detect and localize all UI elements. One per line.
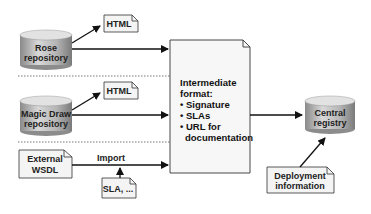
html-doc-1: HTML: [104, 15, 138, 32]
rose-repository-cylinder: Rose repository: [20, 30, 72, 70]
html-doc-1-label: HTML: [107, 19, 132, 29]
external-label-1: External: [27, 154, 63, 164]
intermediate-title-1: Intermediate: [180, 77, 237, 88]
html-doc-2: HTML: [104, 82, 138, 99]
arrow-rose-to-html: [72, 26, 100, 43]
magicdraw-label-2: repository: [24, 119, 68, 129]
magicdraw-label-1: Magic Draw: [21, 109, 72, 119]
import-label: Import: [97, 153, 125, 163]
central-registry-cylinder: Central registry: [305, 96, 355, 134]
external-wsdl-doc: External WSDL: [19, 150, 72, 178]
magicdraw-repository-cylinder: Magic Draw repository: [20, 96, 72, 136]
external-label-2: WSDL: [32, 165, 59, 175]
deployment-label-1: Deployment: [274, 171, 326, 181]
html-doc-2-label: HTML: [107, 86, 132, 96]
deployment-info-doc: Deployment information: [267, 167, 334, 193]
sla-doc: SLA, ...: [102, 178, 136, 198]
rose-label-2: repository: [24, 53, 68, 63]
rose-label-1: Rose: [35, 43, 57, 53]
intermediate-title-2: format:: [180, 88, 213, 99]
intermediate-bullet-3: • URL for: [180, 121, 221, 132]
intermediate-bullet-1: • Signature: [180, 99, 230, 110]
intermediate-format-doc: Intermediate format: • Signature • SLAs …: [170, 40, 253, 173]
arrow-magicdraw-to-html: [72, 93, 100, 110]
intermediate-bullet-2: • SLAs: [180, 110, 210, 121]
deployment-label-2: information: [275, 181, 325, 191]
central-label-1: Central: [314, 108, 345, 118]
sla-label: SLA, ...: [103, 184, 134, 194]
arrow-deployment-to-central: [300, 138, 325, 167]
central-label-2: registry: [313, 118, 346, 128]
intermediate-bullet-4: documentation: [185, 132, 253, 143]
diagram-canvas: Rose repository HTML Magic Draw reposito…: [0, 0, 371, 214]
